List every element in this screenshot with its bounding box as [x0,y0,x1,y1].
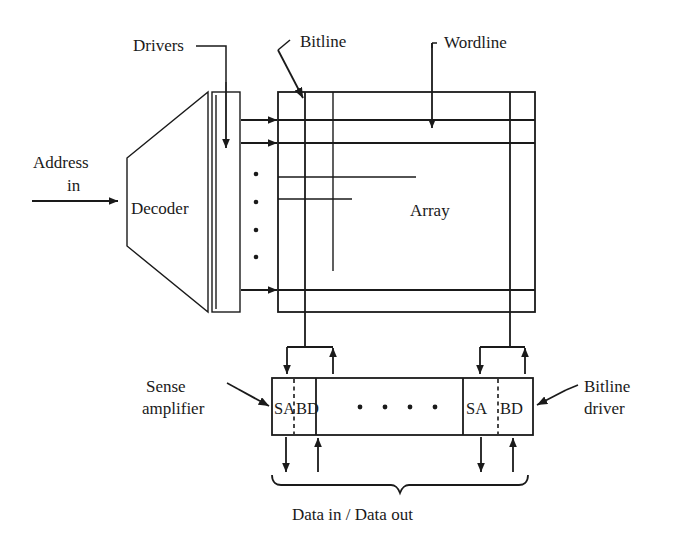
bitline-driver-right-label: BD [500,399,523,418]
wordline-leader [432,43,437,128]
wordline-feed-arrows [241,120,277,290]
data-in-out-label: Data in / Data out [292,505,413,524]
sense-amplifier-label-line1: Sense [146,377,186,396]
array-block [278,92,535,312]
bitline-driver-left-label: BD [296,399,319,418]
sense-amp-left-label: SA [274,399,295,418]
diagram-canvas: Address in Decoder Drivers Bitline Wordl… [0,0,674,544]
array-wordlines [278,120,535,290]
bitline-driver-leader [537,385,578,405]
data-io-arrows [286,437,513,472]
sense-amp-right-label: SA [466,399,487,418]
bitline-driver-label-line2: driver [584,399,625,418]
array-bitlines [305,92,510,347]
address-in-label-line1: Address [33,153,89,172]
drivers-leader [196,46,226,148]
bitline-drop-right [480,347,525,374]
sense-amplifier-label-line2: amplifier [142,399,205,418]
decoder-label: Decoder [131,199,189,218]
sense-amplifier-leader [227,383,269,406]
bitline-label: Bitline [300,32,346,51]
drivers-label: Drivers [133,36,184,55]
sa-bd-ellipsis [358,405,438,410]
wordline-label: Wordline [444,33,507,52]
bitline-drop-left [287,347,333,374]
array-label: Array [410,201,450,220]
data-io-brace [272,475,528,493]
memory-array-diagram: Address in Decoder Drivers Bitline Wordl… [0,0,674,544]
bitline-driver-label-line1: Bitline [584,377,630,396]
decoder-rows-ellipsis [254,172,259,260]
address-in-label-line2: in [67,176,81,195]
